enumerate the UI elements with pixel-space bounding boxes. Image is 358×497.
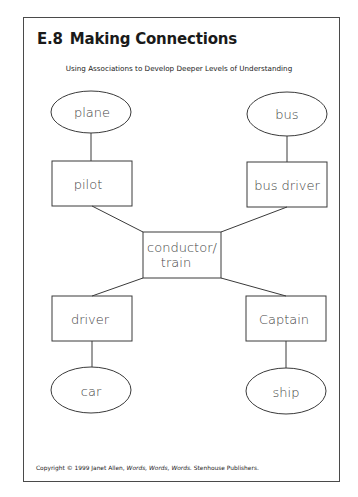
role-label-pilot: pilot (74, 177, 103, 192)
role-label-bus-driver: bus driver (254, 178, 320, 193)
connections-diagram: plane bus car ship pilot bus driver driv… (0, 0, 358, 497)
connector-center-driver (92, 278, 143, 296)
copyright-notice: Copyright © 1999 Janet Allen, Words, Wor… (36, 465, 259, 471)
center-label-line1: conductor/ (147, 240, 217, 255)
connector-center-captain (221, 278, 286, 296)
vehicle-label-ship: ship (273, 385, 300, 400)
vehicle-label-bus: bus (275, 107, 298, 122)
center-label-line2: train (161, 255, 191, 270)
connector-busdriver-center (221, 207, 287, 232)
role-label-captain: Captain (259, 312, 309, 327)
copyright-prefix: Copyright © 1999 Janet Allen, (36, 465, 127, 471)
connector-pilot-center (92, 206, 143, 232)
vehicle-label-car: car (81, 384, 102, 399)
vehicle-label-plane: plane (74, 105, 110, 120)
book-title: Words, Words, Words. (127, 465, 192, 471)
publisher: Stenhouse Publishers. (192, 465, 259, 471)
role-label-driver: driver (71, 312, 110, 327)
